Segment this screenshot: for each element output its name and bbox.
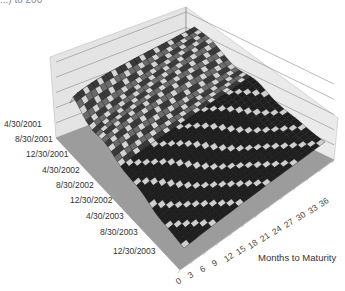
date-label: 12/30/2002 — [70, 195, 113, 205]
date-label: 12/30/2003 — [113, 246, 156, 256]
date-label: 8/30/2002 — [56, 180, 94, 190]
date-label: 4/30/2001 — [4, 119, 42, 129]
date-label: 12/30/2001 — [26, 149, 69, 159]
date-label: 8/30/2003 — [100, 227, 138, 237]
date-label: 4/30/2003 — [86, 211, 124, 221]
date-label: 8/30/2001 — [15, 134, 53, 144]
surface-chart — [0, 0, 345, 291]
maturity-axis-title: Months to Maturity — [258, 252, 336, 263]
date-label: 4/30/2002 — [42, 165, 80, 175]
